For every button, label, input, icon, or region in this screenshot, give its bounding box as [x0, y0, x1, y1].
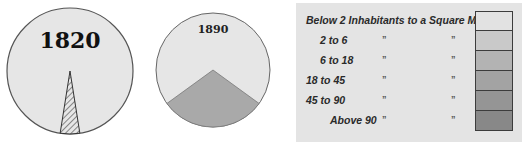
legend-swatch — [475, 111, 513, 131]
pie-1820-title: 1820 — [39, 27, 100, 53]
legend-label: Below 2 Inhabitants to a Square Mile — [306, 14, 488, 26]
legend-swatch — [475, 11, 513, 31]
ditto-mark: ” — [382, 94, 387, 104]
legend-swatch — [475, 51, 513, 71]
ditto-mark: ” — [382, 54, 387, 64]
legend-label: 18 to 45 — [306, 74, 345, 86]
legend-swatch — [475, 71, 513, 91]
legend-swatch — [475, 91, 513, 111]
ditto-mark: ” — [451, 54, 456, 64]
ditto-mark: ” — [451, 34, 456, 44]
legend-row: 18 to 45”” — [296, 71, 522, 91]
pie-1890: 1890 — [156, 13, 270, 127]
density-legend: Below 2 Inhabitants to a Square Mile2 to… — [296, 3, 522, 142]
legend-row: Below 2 Inhabitants to a Square Mile — [296, 11, 522, 31]
legend-swatch — [475, 31, 513, 51]
pie-1820: 1820 — [7, 8, 133, 134]
ditto-mark: ” — [451, 74, 456, 84]
ditto-mark: ” — [382, 114, 387, 124]
legend-label: 6 to 18 — [320, 54, 353, 66]
legend-label: 2 to 6 — [320, 34, 347, 46]
ditto-mark: ” — [382, 34, 387, 44]
ditto-mark: ” — [451, 114, 456, 124]
legend-label: 45 to 90 — [306, 94, 345, 106]
ditto-mark: ” — [382, 74, 387, 84]
legend-label: Above 90 — [330, 114, 377, 126]
legend-row: 6 to 18”” — [296, 51, 522, 71]
legend-row: 2 to 6”” — [296, 31, 522, 51]
legend-row: 45 to 90”” — [296, 91, 522, 111]
ditto-mark: ” — [451, 94, 456, 104]
legend-row: Above 90”” — [296, 111, 522, 131]
pie-1890-title: 1890 — [198, 23, 229, 36]
pie-charts: 1820 1890 — [0, 0, 296, 146]
